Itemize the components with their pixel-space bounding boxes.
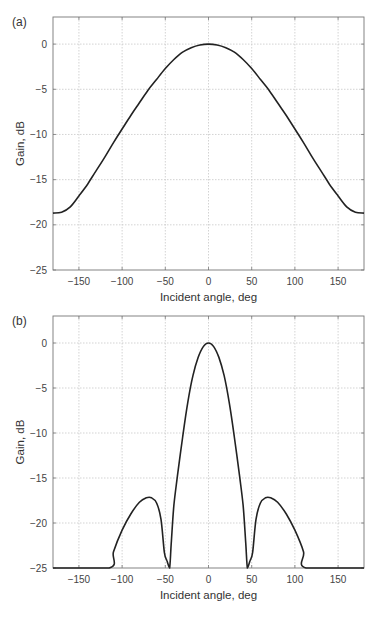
chart-panel-a: (a) 0−5−10−15−20−25 −150−100−50050100150…	[12, 15, 364, 303]
x-tick-label: 150	[330, 276, 347, 287]
x-tick-label: −100	[111, 574, 134, 585]
x-axis-ticks: −150−100−50050100150	[68, 17, 347, 287]
y-tick-label: −5	[36, 383, 48, 394]
y-axis-label: Gain, dB	[14, 121, 26, 166]
y-tick-label: −20	[30, 518, 47, 529]
x-tick-label: 0	[206, 574, 212, 585]
x-tick-label: 150	[330, 574, 347, 585]
x-tick-label: −150	[68, 276, 91, 287]
x-tick-label: 50	[246, 574, 258, 585]
y-tick-label: −5	[36, 84, 48, 95]
x-tick-label: −150	[68, 574, 91, 585]
grid	[53, 17, 364, 270]
x-tick-label: 50	[246, 276, 258, 287]
panel-label: (b)	[12, 314, 27, 328]
y-tick-label: −10	[30, 129, 47, 140]
x-tick-label: 100	[287, 574, 304, 585]
y-axis-ticks: 0−5−10−15−20−25	[30, 39, 364, 276]
x-axis-label: Incident angle, deg	[160, 589, 257, 601]
x-tick-label: 0	[206, 276, 212, 287]
y-tick-label: −15	[30, 473, 47, 484]
chart-panel-b: (b) 0−5−10−15−20−25 −150−100−50050100150…	[12, 314, 364, 601]
x-axis-ticks: −150−100−50050100150	[68, 316, 347, 585]
y-axis-label: Gain, dB	[14, 419, 26, 464]
panel-label: (a)	[12, 15, 27, 29]
x-tick-label: −50	[157, 574, 174, 585]
y-axis-ticks: 0−5−10−15−20−25	[30, 338, 364, 574]
x-tick-label: 100	[287, 276, 304, 287]
y-tick-label: −20	[30, 219, 47, 230]
y-tick-label: −10	[30, 428, 47, 439]
y-tick-label: 0	[41, 338, 47, 349]
x-tick-label: −100	[111, 276, 134, 287]
y-tick-label: −15	[30, 174, 47, 185]
y-tick-label: 0	[41, 39, 47, 50]
y-tick-label: −25	[30, 265, 47, 276]
x-axis-label: Incident angle, deg	[160, 291, 257, 303]
y-tick-label: −25	[30, 563, 47, 574]
figure: (a) 0−5−10−15−20−25 −150−100−50050100150…	[0, 0, 382, 617]
grid	[53, 316, 364, 568]
x-tick-label: −50	[157, 276, 174, 287]
